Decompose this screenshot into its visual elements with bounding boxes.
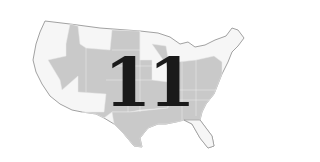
florida <box>184 120 214 148</box>
big-number-overlay: 11 <box>104 50 176 114</box>
